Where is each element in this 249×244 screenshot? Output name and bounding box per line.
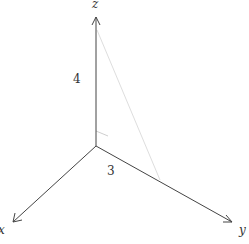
x-axis-label: x <box>0 223 5 237</box>
right-angle-mark <box>96 131 108 136</box>
z-axis-label: z <box>91 0 99 11</box>
y-axis-line <box>96 146 232 222</box>
faint-hypotenuse-line <box>97 30 160 180</box>
y-axis-label: y <box>238 223 246 237</box>
z-length-label: 4 <box>73 72 81 86</box>
axes-diagram: z 4 3 x y <box>0 0 249 244</box>
y-axis-arrowhead-icon <box>223 215 232 222</box>
x-axis-line <box>13 146 96 222</box>
y-length-label: 3 <box>107 164 115 178</box>
